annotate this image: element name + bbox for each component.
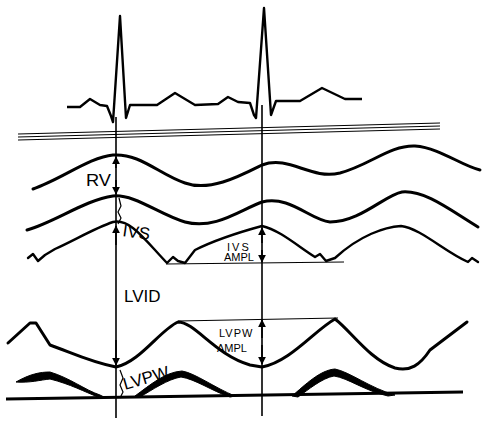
ivs-ampl-label-line2: AMPL [224, 251, 254, 263]
chest-wall-lines [18, 123, 440, 140]
ivs-thickness-marker [118, 198, 121, 224]
lvpw-ampl-topline [178, 318, 338, 321]
lvpw-ampl-label-line1: LVPW [219, 327, 253, 339]
ecg-trace [67, 8, 362, 122]
lvid-label: LVID [124, 287, 161, 306]
ivs-label: IVS [121, 221, 151, 244]
lvpw-ampl-label-line2: AMPL [217, 342, 247, 354]
ivs-ampl-baseline [166, 262, 344, 264]
m-mode-echo-diagram: RV IVS LVID LVPW IVS AMPL LVPW AMPL [0, 0, 487, 428]
rv-label: RV [86, 171, 112, 190]
ivs-right-trace [27, 192, 478, 230]
